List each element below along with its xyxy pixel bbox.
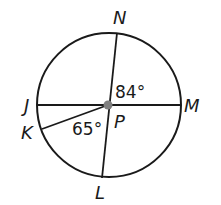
label-m: M — [184, 95, 200, 116]
angle-kl-label: 65° — [72, 119, 102, 139]
center-point-p — [104, 101, 113, 110]
label-j: J — [21, 95, 29, 116]
circle-diagram: N M L J K P 84° 65° — [0, 0, 221, 205]
label-n: N — [113, 7, 126, 28]
label-p: P — [114, 111, 125, 132]
label-l: L — [95, 182, 105, 203]
label-k: K — [21, 122, 34, 143]
angle-nm-label: 84° — [115, 82, 145, 102]
